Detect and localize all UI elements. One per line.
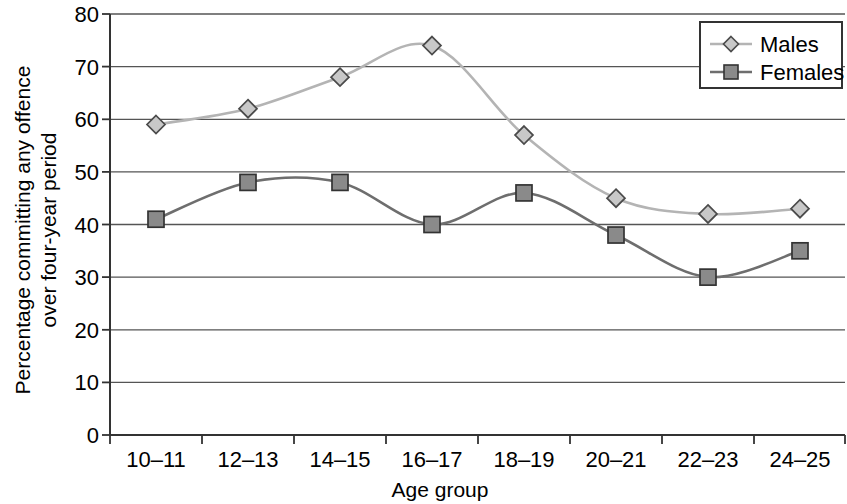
y-axis-title-line1: Percentage committing any offence <box>11 66 34 395</box>
data-point-females-20-21[interactable] <box>608 227 624 243</box>
y-tick-label-40: 40 <box>75 213 99 238</box>
x-axis <box>110 435 845 444</box>
x-tick-label-2: 14–15 <box>309 447 370 472</box>
y-tick-label-0: 0 <box>87 423 99 448</box>
x-tick-label-1: 12–13 <box>217 447 278 472</box>
data-point-males-20-21[interactable] <box>607 189 625 207</box>
x-tick-label-5: 20–21 <box>585 447 646 472</box>
data-point-males-12-13[interactable] <box>239 100 257 118</box>
line-chart: Percentage committing any offence over f… <box>0 0 847 504</box>
y-tick-label-80: 80 <box>75 2 99 27</box>
data-point-females-16-17[interactable] <box>424 217 440 233</box>
x-tick-labels: 10–11 12–13 14–15 16–17 18–19 20–21 22–2… <box>126 447 830 472</box>
y-axis-title: Percentage committing any offence over f… <box>11 66 60 395</box>
legend-label-males: Males <box>760 32 819 57</box>
data-point-females-10-11[interactable] <box>148 211 164 227</box>
legend-label-females: Females <box>760 60 844 85</box>
data-point-males-16-17[interactable] <box>423 37 441 55</box>
data-point-females-14-15[interactable] <box>332 174 348 190</box>
x-tick-label-0: 10–11 <box>126 447 186 472</box>
series-females <box>148 174 808 285</box>
y-tick-label-60: 60 <box>75 107 99 132</box>
data-point-females-12-13[interactable] <box>240 174 256 190</box>
data-point-males-14-15[interactable] <box>331 68 349 86</box>
y-tick-label-70: 70 <box>75 55 99 80</box>
data-point-males-10-11[interactable] <box>147 116 165 134</box>
data-point-females-22-23[interactable] <box>700 269 716 285</box>
y-tick-labels: 80 70 60 50 40 30 20 10 0 <box>75 2 99 448</box>
y-tick-label-10: 10 <box>75 370 99 395</box>
data-point-males-24-25[interactable] <box>791 200 809 218</box>
y-tick-label-20: 20 <box>75 318 99 343</box>
y-axis-title-line2: over four-year period <box>37 133 60 328</box>
x-axis-title: Age group <box>392 478 489 501</box>
data-point-males-22-23[interactable] <box>699 205 717 223</box>
data-point-females-18-19[interactable] <box>516 185 532 201</box>
x-tick-label-3: 16–17 <box>401 447 462 472</box>
y-tick-label-50: 50 <box>75 160 99 185</box>
y-axis <box>102 14 110 435</box>
x-tick-label-4: 18–19 <box>493 447 554 472</box>
x-tick-label-6: 22–23 <box>677 447 738 472</box>
series-line-females <box>156 177 800 277</box>
legend: Males Females <box>700 22 844 88</box>
chart-container: Percentage committing any offence over f… <box>0 0 847 504</box>
y-tick-label-30: 30 <box>75 265 99 290</box>
data-point-females-24-25[interactable] <box>792 243 808 259</box>
x-tick-label-7: 24–25 <box>769 447 830 472</box>
square-marker-icon <box>724 65 738 79</box>
